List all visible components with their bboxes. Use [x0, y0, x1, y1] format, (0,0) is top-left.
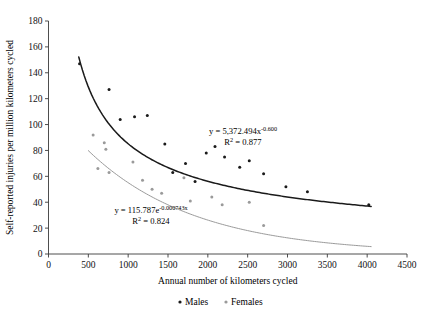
x-tick-label-3000: 3000	[278, 260, 297, 270]
data-point-males	[284, 185, 287, 188]
x-tick-label-0: 0	[46, 260, 51, 270]
data-point-females	[221, 203, 224, 206]
y-axis-title: Self-reported injuries per million kilom…	[5, 40, 15, 235]
legend-marker-males	[178, 300, 181, 303]
y-tick-label-160: 160	[28, 42, 43, 52]
legend-marker-females	[224, 300, 227, 303]
x-tick-label-1000: 1000	[119, 260, 138, 270]
data-point-males	[78, 62, 81, 65]
data-point-males	[171, 171, 174, 174]
data-point-males	[205, 152, 208, 155]
data-point-females	[92, 133, 95, 136]
data-point-males	[119, 118, 122, 121]
data-point-males	[163, 142, 166, 145]
x-tick-label-4500: 4500	[398, 260, 417, 270]
data-point-females	[103, 141, 106, 144]
x-tick-label-500: 500	[81, 260, 96, 270]
data-point-males	[306, 190, 309, 193]
data-point-males	[262, 172, 265, 175]
x-tick-label-1500: 1500	[159, 260, 178, 270]
x-tick-label-4000: 4000	[358, 260, 377, 270]
data-point-males	[133, 115, 136, 118]
y-tick-label-60: 60	[33, 172, 43, 182]
data-point-males	[367, 203, 370, 206]
chart-container: 020406080100120140160180 050010001500200…	[0, 0, 431, 317]
data-point-females	[96, 167, 99, 170]
data-point-females	[262, 224, 265, 227]
data-point-females	[131, 161, 134, 164]
data-point-males	[223, 155, 226, 158]
y-tick-label-0: 0	[38, 249, 43, 259]
data-point-females	[104, 148, 107, 151]
data-point-males	[194, 180, 197, 183]
data-point-females	[189, 199, 192, 202]
r-squared-males: R2 = 0.877	[224, 136, 262, 147]
data-point-females	[151, 188, 154, 191]
r-squared-females: R2 = 0.824	[132, 215, 170, 226]
data-point-females	[160, 192, 163, 195]
data-point-females	[141, 179, 144, 182]
y-tick-label-80: 80	[33, 146, 43, 156]
x-tick-label-3500: 3500	[318, 260, 337, 270]
data-point-males	[238, 166, 241, 169]
data-point-males	[108, 88, 111, 91]
x-axis-title: Annual number of kilometers cycled	[158, 276, 298, 286]
y-tick-label-20: 20	[33, 224, 43, 234]
y-tick-label-100: 100	[28, 120, 43, 130]
data-point-females	[210, 196, 213, 199]
data-point-females	[108, 171, 111, 174]
data-point-males	[214, 145, 217, 148]
y-tick-label-140: 140	[28, 68, 43, 78]
legend-label-females: Females	[231, 297, 263, 307]
data-point-males	[184, 162, 187, 165]
data-point-males	[146, 114, 149, 117]
x-tick-label-2500: 2500	[238, 260, 257, 270]
data-point-females	[248, 201, 251, 204]
data-point-females	[182, 176, 185, 179]
legend-label-males: Males	[185, 297, 209, 307]
y-tick-label-40: 40	[33, 198, 43, 208]
y-tick-label-180: 180	[28, 16, 43, 26]
data-point-males	[248, 159, 251, 162]
y-tick-label-120: 120	[28, 94, 43, 104]
x-tick-label-2000: 2000	[198, 260, 217, 270]
scatter-chart: 020406080100120140160180 050010001500200…	[0, 0, 431, 317]
